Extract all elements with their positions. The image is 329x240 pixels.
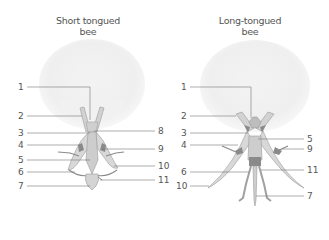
long-label-1: 1 [181,82,187,92]
long-label-9: 9 [307,144,313,154]
short-label-5: 5 [18,155,24,165]
long-tongued-bee [190,40,310,206]
prementum [248,136,262,160]
long-label-3: 3 [181,128,187,138]
long-label-11: 11 [307,165,318,175]
labial-palp-left [239,166,251,201]
short-label-11: 11 [158,175,169,185]
short-label-9: 9 [158,144,164,154]
long-label-5: 5 [307,134,313,144]
short-label-6: 6 [18,167,24,177]
short-label-3: 3 [18,128,24,138]
short-label-8: 8 [158,126,164,136]
glossa [253,166,257,206]
maxilla-right [96,132,118,168]
galea-right [258,131,304,188]
long-label-7: 7 [307,191,313,201]
labium [86,132,98,174]
maxilla-left [68,132,89,170]
short-label-4: 4 [18,140,24,150]
long-label-2: 2 [181,111,187,121]
glossa [85,174,98,190]
short-label-1: 1 [18,82,24,92]
galea-left [208,131,252,188]
short-label-7: 7 [18,181,24,191]
short-label-2: 2 [18,111,24,121]
short-label-10: 10 [158,161,169,171]
long-label-10: 10 [176,181,187,191]
long-label-4: 4 [181,140,187,150]
short-tongued-bee [27,39,155,190]
long-label-6: 6 [181,167,187,177]
